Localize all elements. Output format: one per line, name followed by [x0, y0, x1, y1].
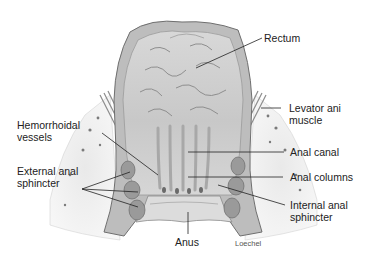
label-levator-ani-muscle: Levator ani muscle	[289, 102, 341, 126]
label-external-sphincter-line-1: External anal	[17, 165, 78, 177]
label-external-anal-sphincter: External anal sphincter	[17, 165, 78, 189]
label-anus-line-1: Anus	[175, 236, 199, 248]
label-internal-anal-sphincter: Internal anal sphincter	[290, 199, 348, 223]
label-levator-ani-line-1: Levator ani	[289, 102, 341, 114]
label-internal-sphincter-line-1: Internal anal	[290, 199, 348, 211]
label-hemorrhoidal-line-1: Hemorrhoidal	[17, 119, 80, 131]
label-rectum: Rectum	[264, 32, 300, 44]
label-external-sphincter-line-2: sphincter	[17, 177, 78, 189]
label-rectum-line-1: Rectum	[264, 32, 300, 44]
illustrator-credit: Loechel	[235, 239, 261, 248]
label-hemorrhoidal-vessels: Hemorrhoidal vessels	[17, 119, 80, 143]
label-levator-ani-line-2: muscle	[289, 114, 341, 126]
label-hemorrhoidal-line-2: vessels	[17, 131, 80, 143]
label-internal-sphincter-line-2: sphincter	[290, 211, 348, 223]
anal-verge	[136, 196, 232, 222]
label-anal-columns: Anal columns	[290, 171, 353, 183]
label-anus: Anus	[175, 236, 199, 248]
anatomy-figure: Rectum Levator ani muscle Hemorrhoidal v…	[0, 0, 367, 258]
label-anal-canal-line-1: Anal canal	[290, 146, 339, 158]
label-anal-columns-line-1: Anal columns	[290, 171, 353, 183]
label-anal-canal: Anal canal	[290, 146, 339, 158]
